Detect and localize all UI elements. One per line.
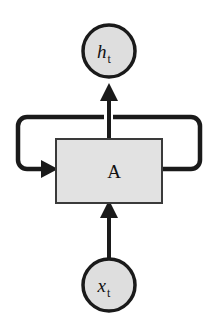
rnn-diagram: A ht xt — [0, 0, 218, 319]
cell-label: A — [107, 161, 121, 182]
output-node-ht: ht — [83, 25, 135, 77]
output-node-symbol: h — [97, 41, 107, 62]
output-arrowhead-icon — [100, 83, 118, 101]
cell-to-output-edge — [100, 83, 118, 139]
input-to-cell-edge — [100, 200, 118, 259]
input-node-symbol: x — [97, 275, 107, 296]
input-node-circle — [83, 259, 135, 311]
input-node-xt: xt — [83, 259, 135, 311]
output-node-circle — [83, 25, 135, 77]
cell-node-a: A — [56, 139, 162, 203]
rnn-diagram-canvas: A ht xt — [0, 0, 218, 319]
